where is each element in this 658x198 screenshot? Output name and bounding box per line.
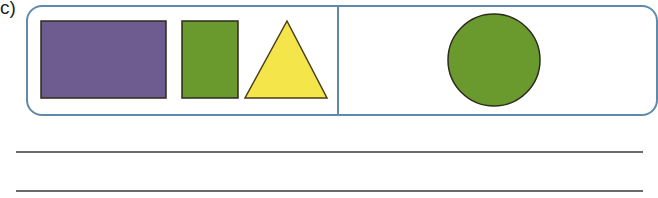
purple-rectangle — [41, 21, 166, 98]
answer-line-1[interactable] — [16, 151, 643, 153]
green-circle — [448, 14, 540, 106]
left-panel — [41, 21, 327, 98]
yellow-triangle — [245, 21, 327, 98]
right-panel — [448, 14, 540, 106]
answer-line-2[interactable] — [16, 190, 643, 192]
green-rectangle — [182, 21, 238, 98]
